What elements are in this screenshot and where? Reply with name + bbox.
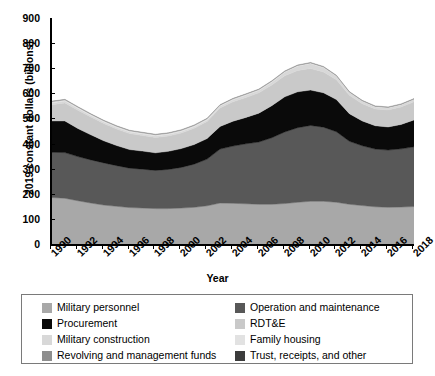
y-axis-tick-label: 0 [0,239,40,249]
y-axis-tick-label: 700 [0,63,40,73]
legend-item-label: Revolving and management funds [57,350,216,361]
legend-item[interactable]: Military personnel [42,300,216,315]
legend-item-label: Family housing [250,334,321,345]
legend-swatch-icon [42,303,52,313]
legend-item-label: Operation and maintenance [250,302,380,313]
legend-swatch-icon [235,303,245,313]
y-axis-tick-label: 300 [0,164,40,174]
y-axis-tick-label: 200 [0,189,40,199]
x-axis-tick-label: 2018 [411,234,435,258]
y-axis-tick-labels: 0100200300400500600700800900 [0,0,46,262]
legend-swatch-icon [235,351,245,361]
y-axis-tick-mark [50,43,55,44]
y-axis-tick-label: 400 [0,139,40,149]
legend-item[interactable]: Revolving and management funds [42,348,216,363]
y-axis-tick-mark [50,144,55,145]
legend-column-left: Military personnelProcurementMilitary co… [42,300,216,364]
y-axis-tick-mark [50,93,55,94]
legend-swatch-icon [42,319,52,329]
y-axis-tick-mark [50,194,55,195]
y-axis-tick-label: 600 [0,88,40,98]
y-axis-tick-mark [50,118,55,119]
y-axis-tick-label: 900 [0,13,40,23]
legend-swatch-icon [42,335,52,345]
legend-item-label: Military personnel [57,302,139,313]
legend-item[interactable]: RDT&E [235,316,380,331]
plot-area [50,18,414,246]
legend-item-label: Procurement [57,318,117,329]
legend-column-right: Operation and maintenanceRDT&EFamily hou… [235,300,380,364]
stacked-area-paths [52,18,414,244]
legend-item[interactable]: Family housing [235,332,380,347]
y-axis-tick-label: 100 [0,214,40,224]
legend-item-label: RDT&E [250,318,286,329]
legend-item[interactable]: Trust, receipts, and other [235,348,380,363]
x-axis-title: Year [0,272,435,284]
y-axis-tick-mark [50,219,55,220]
y-axis-tick-label: 500 [0,113,40,123]
y-axis-tick-mark [50,68,55,69]
legend-swatch-icon [235,335,245,345]
y-axis-tick-label: 800 [0,38,40,48]
y-axis-tick-mark [50,169,55,170]
legend-item[interactable]: Military construction [42,332,216,347]
legend-swatch-icon [42,351,52,361]
legend-swatch-icon [235,319,245,329]
legend-item[interactable]: Procurement [42,316,216,331]
stacked-area-chart-figure: 2019 constant dollars (billions) 0100200… [0,0,435,376]
legend-item-label: Trust, receipts, and other [250,350,366,361]
legend-item-label: Military construction [57,334,150,345]
legend: Military personnelProcurementMilitary co… [21,294,413,364]
legend-item[interactable]: Operation and maintenance [235,300,380,315]
